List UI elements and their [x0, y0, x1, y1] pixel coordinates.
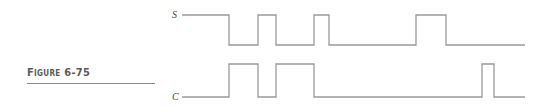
- signal-c: C: [172, 64, 525, 102]
- signal-s-waveform: [182, 15, 525, 45]
- signal-c-label: C: [172, 91, 179, 102]
- signal-s: S: [172, 9, 525, 45]
- signal-s-label: S: [172, 9, 177, 20]
- timing-diagram: S C: [0, 0, 546, 107]
- signal-c-waveform: [182, 64, 525, 97]
